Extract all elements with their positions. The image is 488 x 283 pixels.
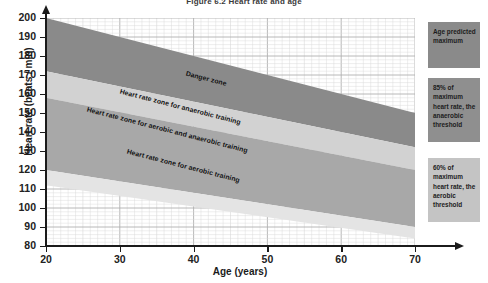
y-axis-tick [40, 113, 46, 114]
y-axis-tick [40, 56, 46, 57]
zone-label-aerobic-anaerobic: Heart rate zone for aerobic and anaerobi… [86, 106, 248, 154]
x-axis-tick-label: 60 [321, 253, 361, 265]
x-axis-tick [120, 246, 121, 252]
legend-item-label: 60% of maximum heart rate, the aerobic t… [433, 164, 475, 208]
y-axis-tick [40, 189, 46, 190]
y-axis-tick [40, 75, 46, 76]
x-axis-title: Age (years) [150, 266, 330, 277]
y-axis-tick-label: 100 [0, 201, 36, 213]
zone-labels-layer: Danger zoneHeart rate zone for anaerobic… [46, 18, 415, 246]
y-axis-tick [40, 18, 46, 19]
x-axis-tick [46, 246, 47, 252]
legend-item-label: 85% of maximum heart rate, the anaerobic… [433, 84, 475, 128]
plot-area: Danger zoneHeart rate zone for anaerobic… [46, 18, 415, 246]
x-axis-tick [267, 246, 268, 252]
y-axis-tick [40, 170, 46, 171]
x-axis-tick [415, 246, 416, 252]
zone-label-aerobic: Heart rate zone for aerobic training [126, 148, 241, 184]
y-axis-tick [40, 208, 46, 209]
chart-figure: Figure 6.2 Heart rate and age Danger zon… [0, 0, 488, 283]
x-axis-arrow-icon [455, 242, 464, 250]
x-axis-tick [341, 246, 342, 252]
y-axis-line [45, 12, 47, 247]
legend-item-aerobic-threshold: 60% of maximum heart rate, the aerobic t… [428, 158, 480, 222]
y-axis-tick [40, 227, 46, 228]
x-axis-tick-label: 40 [174, 253, 214, 265]
legend-item-label: Age predicted maximum [433, 28, 476, 44]
legend-item-age-predicted-maximum: Age predicted maximum [428, 22, 480, 68]
x-axis-tick-label: 20 [26, 253, 66, 265]
y-axis-tick-label: 90 [0, 220, 36, 232]
x-axis-tick [194, 246, 195, 252]
y-axis-tick-label: 80 [0, 239, 36, 251]
x-axis-tick-label: 70 [395, 253, 435, 265]
y-axis-tick [40, 37, 46, 38]
zone-label-danger: Danger zone [185, 70, 227, 87]
x-axis-line [45, 245, 457, 247]
y-axis-title: Heart rate (beats / min) [23, 22, 34, 182]
legend-item-anaerobic-threshold: 85% of maximum heart rate, the anaerobic… [428, 78, 480, 142]
y-axis-tick [40, 151, 46, 152]
figure-title: Figure 6.2 Heart rate and age [0, 0, 488, 6]
y-axis-arrow-icon [42, 5, 50, 14]
y-axis-tick-label: 110 [0, 182, 36, 194]
x-axis-tick-label: 30 [100, 253, 140, 265]
y-axis-tick [40, 132, 46, 133]
x-axis-tick-label: 50 [247, 253, 287, 265]
y-axis-tick [40, 94, 46, 95]
